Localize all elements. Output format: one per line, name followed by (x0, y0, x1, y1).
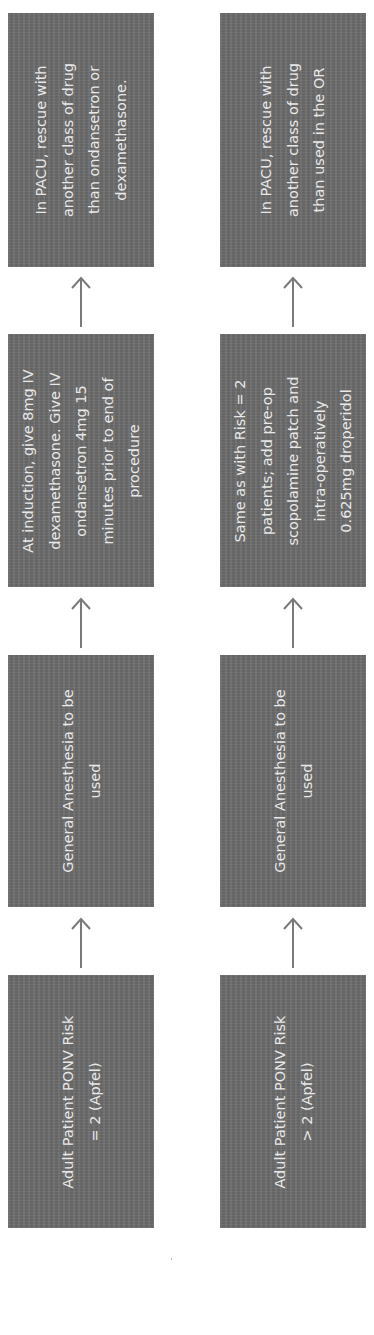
step-label: Same as with Risk = 2 patients; add pre-… (227, 334, 360, 587)
arrow-up-icon (283, 917, 303, 969)
step-box-risk-greater-2: Adult Patient PONV Risk > 2 (Apfel) (220, 975, 366, 1228)
step-box-induction-meds: At induction, give 8mg IV dexamethasone.… (8, 334, 154, 587)
step-label: Adult Patient PONV Risk = 2 (Apfel) (55, 975, 108, 1228)
step-label: General Anesthesia to be used (267, 655, 320, 907)
step-label: In PACU, rescue with another class of dr… (253, 13, 333, 267)
step-box-general-anesthesia: General Anesthesia to be used (220, 655, 366, 907)
step-label: At induction, give 8mg IV dexamethasone.… (15, 334, 148, 587)
step-label: Adult Patient PONV Risk > 2 (Apfel) (267, 975, 320, 1228)
arrow-up-icon (71, 917, 91, 969)
arrow-up-icon (283, 597, 303, 649)
arrow-up-icon (283, 276, 303, 328)
step-box-pacu-rescue: In PACU, rescue with another class of dr… (8, 13, 154, 267)
arrow-up-icon (71, 276, 91, 328)
step-box-pacu-rescue: In PACU, rescue with another class of dr… (220, 13, 366, 267)
artifact-speck (171, 1258, 172, 1260)
step-box-risk-equal-2: Adult Patient PONV Risk = 2 (Apfel) (8, 975, 154, 1228)
arrow-up-icon (71, 597, 91, 649)
step-box-general-anesthesia: General Anesthesia to be used (8, 655, 154, 907)
step-box-added-meds: Same as with Risk = 2 patients; add pre-… (220, 334, 366, 587)
step-label: In PACU, rescue with another class of dr… (28, 13, 134, 267)
step-label: General Anesthesia to be used (55, 655, 108, 907)
